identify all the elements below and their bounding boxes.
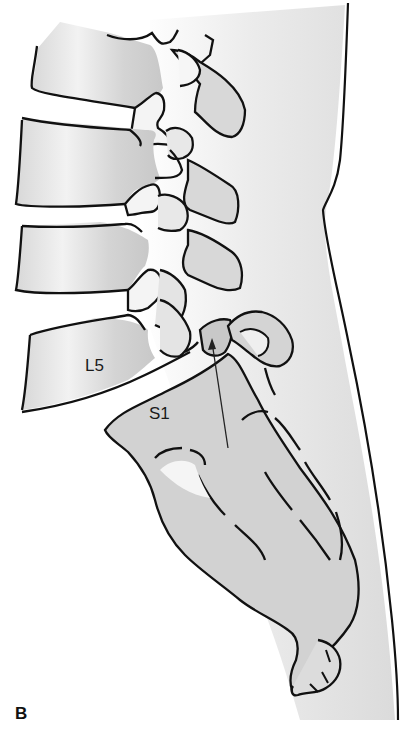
spine-diagram: L5 S1 B [0, 0, 420, 735]
panel-label: B [15, 704, 27, 724]
label-s1: S1 [149, 404, 170, 424]
l5-posterior-elements [200, 319, 232, 355]
spine-illustration [0, 0, 420, 735]
label-l5: L5 [85, 356, 104, 376]
vertebra-l4-body [16, 222, 149, 293]
